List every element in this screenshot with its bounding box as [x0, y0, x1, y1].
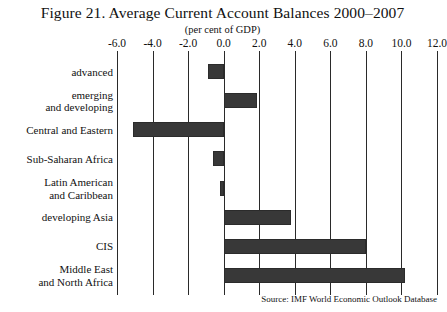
x-axis-tick-labels: -6.0-4.0-2.00.02.04.06.08.010.012.0: [117, 37, 437, 51]
bar: [224, 210, 292, 225]
gridline: [401, 57, 402, 290]
x-axis-tick-label: 4.0: [288, 37, 302, 49]
x-axis-tick: [437, 290, 438, 295]
gridline: [259, 57, 260, 290]
y-axis-category-label: Central and Eastern: [0, 124, 113, 137]
x-axis-tick-top: [117, 51, 118, 57]
x-axis-tick-label: 12.0: [427, 37, 447, 49]
gridline: [330, 57, 331, 290]
y-axis-category-label: Middle East and North Africa: [0, 263, 113, 288]
bar: [224, 239, 366, 254]
x-axis-tick-top: [366, 51, 367, 57]
x-axis-tick-label: 8.0: [359, 37, 373, 49]
figure-subtitle: (per cent of GDP): [0, 24, 445, 35]
x-axis-tick-label: -2.0: [179, 37, 197, 49]
x-axis-tick-label: 6.0: [323, 37, 337, 49]
x-axis-tick-top: [330, 51, 331, 57]
y-axis-category-label: CIS: [0, 240, 113, 253]
gridline: [117, 57, 118, 290]
x-axis-tick-label: -4.0: [143, 37, 161, 49]
gridline: [437, 57, 438, 290]
y-axis-category-label: developing Asia: [0, 211, 113, 224]
x-axis-tick-top: [259, 51, 260, 57]
plot-area: [117, 57, 437, 290]
bar: [220, 181, 224, 196]
x-axis-tick-label: 10.0: [391, 37, 411, 49]
x-axis-tick-top: [295, 51, 296, 57]
x-axis-tick-top: [188, 51, 189, 57]
gridline: [366, 57, 367, 290]
bar: [213, 151, 224, 166]
y-axis-category-label: emerging and developing: [0, 88, 113, 113]
source-note: Source: IMF World Economic Outlook Datab…: [0, 294, 437, 304]
figure-title: Figure 21. Average Current Account Balan…: [0, 4, 445, 22]
bar: [208, 64, 224, 79]
bar: [224, 93, 258, 108]
gridline: [295, 57, 296, 290]
x-axis-tick-label: 0.0: [216, 37, 230, 49]
x-axis-tick-top: [153, 51, 154, 57]
x-axis-tick-label: 2.0: [252, 37, 266, 49]
gridline: [153, 57, 154, 290]
x-axis-tick-top: [401, 51, 402, 57]
gridline: [224, 57, 225, 290]
x-axis-tick-label: -6.0: [108, 37, 126, 49]
x-axis-tick-top: [224, 51, 225, 57]
y-axis-category-labels: advancedemerging and developingCentral a…: [0, 57, 113, 290]
y-axis-category-label: Latin American and Caribbean: [0, 176, 113, 201]
gridline: [188, 57, 189, 290]
bar: [133, 122, 224, 137]
y-axis-category-label: advanced: [0, 65, 113, 78]
x-axis-tick-top: [437, 51, 438, 57]
bar: [224, 268, 405, 283]
y-axis-category-label: Sub-Saharan Africa: [0, 153, 113, 166]
